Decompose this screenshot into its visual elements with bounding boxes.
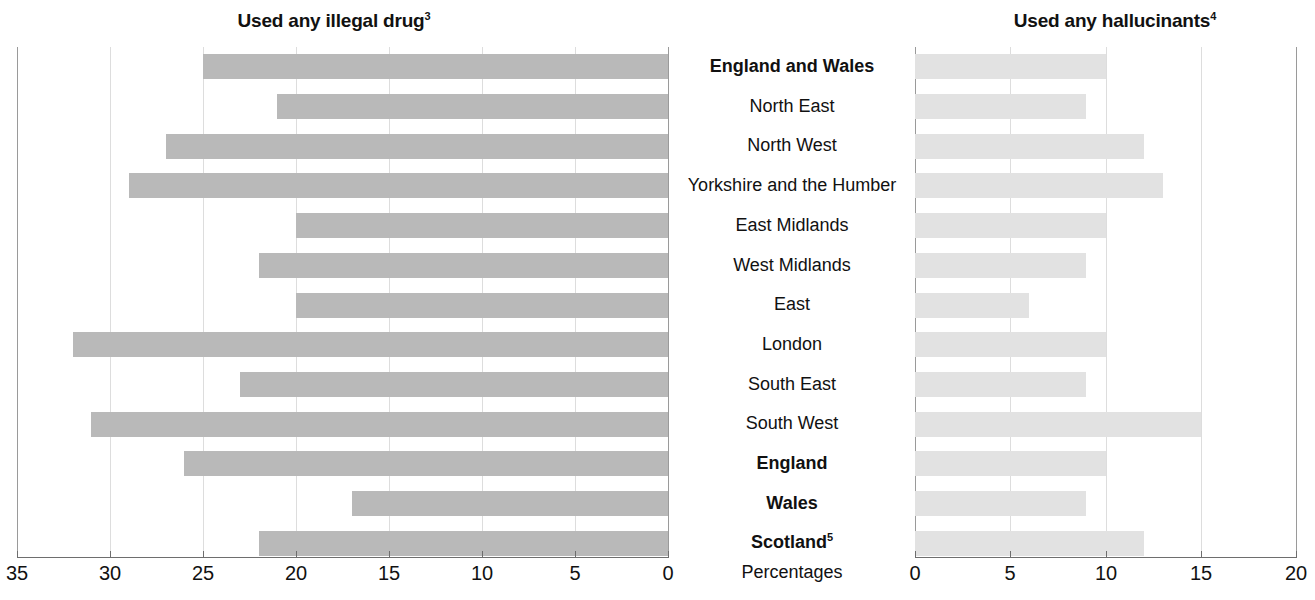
- bar-row: [17, 365, 668, 405]
- bar-row: [915, 444, 1296, 484]
- axis-tick: [575, 551, 576, 558]
- title-footnote-marker: 4: [1210, 10, 1216, 22]
- axis-tick: [17, 551, 18, 558]
- axis-tick-label: 15: [1171, 562, 1231, 585]
- axis-spine: [1296, 47, 1297, 557]
- category-label: South West: [669, 404, 915, 444]
- bar[interactable]: [915, 293, 1029, 318]
- category-label: England and Wales: [669, 47, 915, 87]
- bar[interactable]: [915, 54, 1106, 79]
- bar-row: [17, 484, 668, 524]
- bar-row: [17, 87, 668, 127]
- right-plot-area: [915, 47, 1296, 557]
- bar[interactable]: [203, 54, 668, 79]
- bar[interactable]: [915, 412, 1201, 437]
- axis-tick: [1296, 551, 1297, 558]
- bar[interactable]: [352, 491, 668, 516]
- bar[interactable]: [129, 173, 668, 198]
- bar-row: [915, 484, 1296, 524]
- bar[interactable]: [277, 94, 668, 119]
- bar[interactable]: [915, 253, 1086, 278]
- bar-row: [17, 206, 668, 246]
- right-panel-title: Used any hallucinants4: [915, 10, 1315, 32]
- bar-row: [17, 404, 668, 444]
- bar-row: [17, 246, 668, 286]
- left-plot-area: [17, 47, 668, 557]
- bar[interactable]: [259, 531, 668, 556]
- bar-row: [17, 444, 668, 484]
- title-footnote-marker: 3: [424, 10, 430, 22]
- axis-tick-label: 25: [173, 562, 233, 585]
- axis-tick-label: 35: [0, 562, 47, 585]
- axis-tick: [1201, 551, 1202, 558]
- paired-bar-chart-figure: Used any illegal drug3 Used any hallucin…: [0, 0, 1315, 600]
- axis-tick-label: 20: [1266, 562, 1315, 585]
- bar-row: [17, 285, 668, 325]
- bar[interactable]: [73, 332, 668, 357]
- axis-tick: [1106, 551, 1107, 558]
- bar-row: [17, 47, 668, 87]
- category-label: East: [669, 285, 915, 325]
- category-label: Wales: [669, 484, 915, 524]
- bar[interactable]: [240, 372, 668, 397]
- axis-tick: [296, 551, 297, 558]
- axis-tick: [1010, 551, 1011, 558]
- category-label: Scotland5: [669, 523, 915, 563]
- category-label: London: [669, 325, 915, 365]
- axis-unit-label: Percentages: [669, 562, 915, 583]
- category-label: North East: [669, 87, 915, 127]
- axis-tick: [389, 551, 390, 558]
- bar-row: [915, 166, 1296, 206]
- bar-row: [915, 404, 1296, 444]
- axis-tick: [482, 551, 483, 558]
- bar[interactable]: [915, 332, 1106, 357]
- bar[interactable]: [166, 134, 668, 159]
- bar-row: [17, 126, 668, 166]
- bar[interactable]: [915, 372, 1086, 397]
- category-label: South East: [669, 365, 915, 405]
- axis-tick-label: 15: [359, 562, 419, 585]
- bar[interactable]: [915, 134, 1144, 159]
- axis-tick: [668, 551, 669, 558]
- axis-tick-label: 30: [80, 562, 140, 585]
- bar[interactable]: [296, 213, 668, 238]
- bar[interactable]: [915, 451, 1106, 476]
- bar[interactable]: [915, 213, 1106, 238]
- bar-row: [17, 325, 668, 365]
- left-axis-line: [17, 557, 669, 558]
- bar-row: [915, 126, 1296, 166]
- axis-tick-label: 5: [980, 562, 1040, 585]
- bar-row: [915, 325, 1296, 365]
- bar[interactable]: [915, 173, 1163, 198]
- axis-tick-label: 20: [266, 562, 326, 585]
- axis-tick-label: 10: [1076, 562, 1136, 585]
- bar-row: [915, 285, 1296, 325]
- axis-tick-label: 10: [452, 562, 512, 585]
- left-panel-title: Used any illegal drug3: [0, 10, 668, 32]
- bar[interactable]: [915, 94, 1086, 119]
- axis-tick-label: 5: [545, 562, 605, 585]
- bar-row: [915, 246, 1296, 286]
- bar[interactable]: [915, 531, 1144, 556]
- bar-row: [915, 206, 1296, 246]
- category-label-column: England and WalesNorth EastNorth WestYor…: [669, 47, 915, 557]
- bar[interactable]: [296, 293, 668, 318]
- bar-row: [915, 87, 1296, 127]
- category-label: North West: [669, 126, 915, 166]
- bar-row: [915, 365, 1296, 405]
- category-label: Yorkshire and the Humber: [669, 166, 915, 206]
- bar-row: [915, 47, 1296, 87]
- category-label: West Midlands: [669, 246, 915, 286]
- category-footnote-marker: 5: [827, 531, 833, 543]
- category-label: England: [669, 444, 915, 484]
- bar[interactable]: [259, 253, 668, 278]
- bar[interactable]: [184, 451, 668, 476]
- bar[interactable]: [915, 491, 1086, 516]
- bar-row: [17, 166, 668, 206]
- axis-tick: [203, 551, 204, 558]
- axis-tick: [110, 551, 111, 558]
- category-label: East Midlands: [669, 206, 915, 246]
- axis-tick: [915, 551, 916, 558]
- bar[interactable]: [91, 412, 668, 437]
